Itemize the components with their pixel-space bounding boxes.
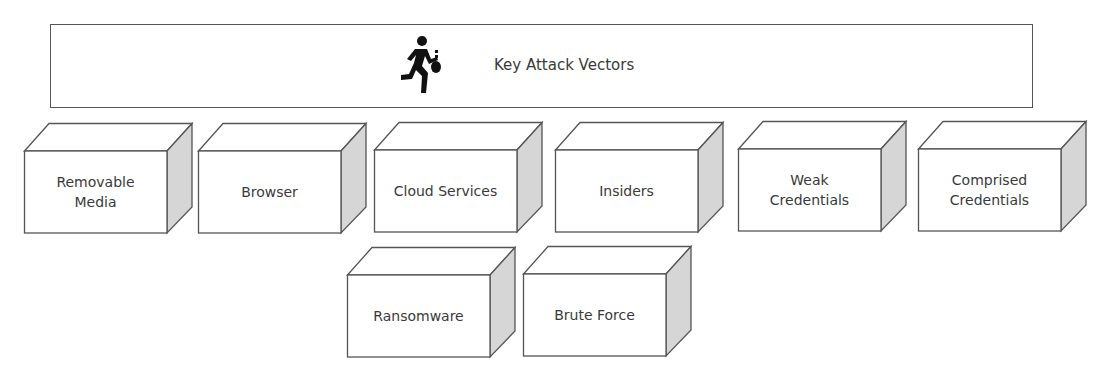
vector-label: Insiders <box>555 150 698 232</box>
vector-label: Removable Media <box>24 151 167 233</box>
running-thief-icon <box>395 35 447 95</box>
header-banner: Key Attack Vectors <box>50 24 1033 108</box>
vector-label: Comprised Credentials <box>918 149 1061 231</box>
vector-label: Ransomware <box>347 275 490 357</box>
vector-label: Brute Force <box>523 274 666 356</box>
vector-label: Weak Credentials <box>738 149 881 231</box>
vector-label: Cloud Services <box>374 150 517 232</box>
header-title: Key Attack Vectors <box>494 56 634 74</box>
vector-label: Browser <box>198 151 341 233</box>
